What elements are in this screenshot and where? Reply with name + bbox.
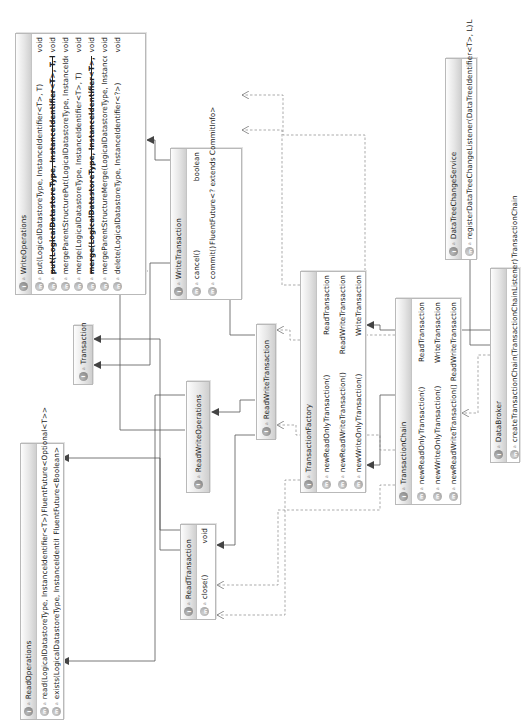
class-name: Transaction xyxy=(79,322,88,364)
interface-icon: I xyxy=(304,480,313,489)
class-data-tree-change-service[interactable]: I a DataTreeChangeService maregisterData… xyxy=(445,58,477,260)
class-header: I a TransactionChain xyxy=(396,299,412,504)
method-row-deprecated[interactable]: maput(LogicalDatastoreType, InstanceIden… xyxy=(46,34,59,294)
method-icon: m xyxy=(200,607,209,616)
abstract-marker-icon: a xyxy=(306,475,311,478)
abstract-marker-icon: a xyxy=(186,602,191,605)
interface-icon: I xyxy=(174,287,183,296)
method-icon: m xyxy=(87,282,96,291)
method-row[interactable]: maput(LogicalDatastoreType, InstanceIden… xyxy=(33,34,46,294)
class-name: ReadWriteTransaction xyxy=(262,340,271,419)
interface-icon: I xyxy=(19,282,28,291)
method-row[interactable]: manewReadWriteTransaction()ReadWriteTran… xyxy=(334,272,350,492)
abstract-marker-icon: a xyxy=(21,277,26,280)
method-row[interactable]: maregisterDataTreeChangeListener(DataTre… xyxy=(463,59,476,259)
method-icon: m xyxy=(417,492,426,501)
method-row[interactable]: macreateTransactionChain(TransactionChai… xyxy=(508,269,521,462)
class-transaction-chain[interactable]: I a TransactionChain manewReadOnlyTransa… xyxy=(395,298,461,505)
abstract-marker-icon: a xyxy=(210,282,215,285)
class-name: WriteOperations xyxy=(19,215,28,274)
method-icon: m xyxy=(113,282,122,291)
class-read-transaction[interactable]: I a ReadTransaction maclose()void xyxy=(180,524,216,620)
class-name: DataBroker xyxy=(494,401,503,442)
method-row[interactable]: mamerge(LogicalDatastoreType, InstanceId… xyxy=(72,34,85,294)
edge-rwops-readops xyxy=(62,395,185,661)
method-icon: m xyxy=(192,287,201,296)
class-transaction[interactable]: I a Transaction xyxy=(73,325,93,385)
abstract-marker-icon: a xyxy=(194,282,199,285)
method-row[interactable]: maexists(LogicalDatastoreType, InstanceI… xyxy=(50,444,62,719)
method-icon: m xyxy=(433,492,442,501)
dep-factory-rwtx-1 xyxy=(277,330,300,340)
abstract-marker-icon: a xyxy=(264,422,269,425)
class-read-write-transaction[interactable]: I a ReadWriteTransaction xyxy=(256,324,276,440)
abstract-marker-icon: a xyxy=(26,702,31,705)
interface-icon: I xyxy=(184,607,193,616)
abstract-marker-icon: a xyxy=(451,242,456,245)
method-row-deprecated[interactable]: mamerge(LogicalDatastoreType, InstanceId… xyxy=(85,34,98,294)
class-write-operations[interactable]: I a WriteOperations maput(LogicalDatasto… xyxy=(15,33,146,295)
method-icon: m xyxy=(354,480,363,489)
abstract-marker-icon: a xyxy=(356,475,361,478)
edge-readtx-transaction xyxy=(94,339,180,530)
method-row[interactable]: manewReadOnlyTransaction()ReadTransactio… xyxy=(318,272,334,492)
method-icon: m xyxy=(510,450,519,459)
method-row[interactable]: manewReadWriteTransaction()ReadWriteTran… xyxy=(445,299,461,504)
edge-broker-dtcs xyxy=(470,253,490,345)
method-row[interactable]: macancel()boolean xyxy=(188,149,204,299)
method-row[interactable]: manewWriteOnlyTransaction()WriteTransact… xyxy=(429,299,445,504)
class-header: I a TransactionFactory xyxy=(301,272,317,492)
abstract-marker-icon: a xyxy=(42,702,47,705)
interface-icon: I xyxy=(449,247,458,256)
class-name: WriteTransaction xyxy=(174,218,183,279)
abstract-marker-icon: a xyxy=(81,367,86,370)
class-header: I a ReadWriteTransaction xyxy=(257,325,275,439)
interface-icon: I xyxy=(262,427,271,436)
class-name: ReadWriteOperations xyxy=(194,395,203,473)
class-name: TransactionFactory xyxy=(304,404,313,472)
abstract-marker-icon: a xyxy=(115,277,120,280)
abstract-marker-icon: a xyxy=(451,487,456,490)
interface-icon: I xyxy=(399,492,408,501)
method-icon: m xyxy=(74,282,83,291)
abstract-marker-icon: a xyxy=(196,475,201,478)
method-row[interactable]: mamergeParentStructureMerge(LogicalDatas… xyxy=(98,34,111,294)
class-header: I a WriteOperations xyxy=(16,34,32,294)
abstract-marker-icon: a xyxy=(63,277,68,280)
method-row[interactable]: maread(LogicalDatastoreType, InstanceIde… xyxy=(38,444,50,719)
class-data-broker[interactable]: I a DataBroker macreateTransactionChain(… xyxy=(490,268,520,463)
edge-rwtx-rwops xyxy=(212,400,255,412)
abstract-marker-icon: a xyxy=(324,475,329,478)
abstract-marker-icon: a xyxy=(76,277,81,280)
abstract-marker-icon: a xyxy=(89,277,94,280)
abstract-marker-icon: a xyxy=(102,277,107,280)
method-icon: m xyxy=(40,707,49,716)
method-icon: m xyxy=(208,287,217,296)
method-icon: m xyxy=(449,492,458,501)
abstract-marker-icon: a xyxy=(435,487,440,490)
class-read-write-operations[interactable]: I a ReadWriteOperations xyxy=(186,381,210,493)
method-icon: m xyxy=(100,282,109,291)
class-write-transaction[interactable]: I a WriteTransaction macancel()boolean m… xyxy=(170,148,242,300)
class-name: ReadTransaction xyxy=(184,539,193,599)
class-header: I a DataBroker xyxy=(491,269,507,462)
class-name: DataTreeChangeService xyxy=(449,152,458,240)
method-row[interactable]: maclose()void xyxy=(198,525,211,619)
class-read-operations[interactable]: I a ReadOperations maread(LogicalDatasto… xyxy=(20,443,64,720)
class-transaction-factory[interactable]: I a TransactionFactory manewReadOnlyTran… xyxy=(300,271,366,493)
method-row[interactable]: manewReadOnlyTransaction()ReadTransactio… xyxy=(413,299,429,504)
method-icon: m xyxy=(322,480,331,489)
method-row[interactable]: macommit()FluentFuture<? extends CommitI… xyxy=(204,149,220,299)
method-icon: m xyxy=(61,282,70,291)
dep-factory-writetx-1 xyxy=(242,130,300,285)
method-row[interactable]: manewWriteOnlyTransaction()WriteTransact… xyxy=(350,272,366,492)
method-row[interactable]: madelete(LogicalDatastoreType, InstanceI… xyxy=(111,34,124,294)
method-icon: m xyxy=(338,480,347,489)
abstract-marker-icon: a xyxy=(54,702,59,705)
interface-icon: I xyxy=(79,372,88,381)
method-row[interactable]: mamergeParentStructurePut(LogicalDatasto… xyxy=(59,34,72,294)
dep-chain-readtx xyxy=(217,485,395,585)
dep-factory-readtx xyxy=(217,480,300,615)
edge-rwtx-readtx xyxy=(217,435,255,545)
class-header: I a ReadWriteOperations xyxy=(187,382,209,492)
